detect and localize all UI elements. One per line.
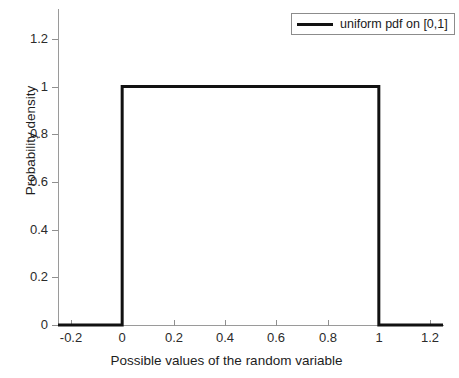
x-tick-mark bbox=[276, 320, 277, 326]
y-tick-mark bbox=[52, 230, 58, 231]
x-tick-label: 1.2 bbox=[400, 331, 459, 344]
y-tick-mark bbox=[52, 325, 58, 326]
x-tick-mark bbox=[379, 320, 380, 326]
x-tick-mark bbox=[174, 320, 175, 326]
x-tick-label: 0.6 bbox=[246, 331, 306, 344]
x-tick-mark bbox=[225, 320, 226, 326]
y-tick-label: 0.2 bbox=[0, 270, 48, 283]
y-tick-mark bbox=[52, 87, 58, 88]
legend-entry-label: uniform pdf on [0,1] bbox=[340, 18, 448, 31]
y-tick-label: 1.2 bbox=[0, 32, 48, 45]
x-tick-mark bbox=[430, 320, 431, 326]
y-tick-mark bbox=[52, 277, 58, 278]
x-tick-mark bbox=[122, 320, 123, 326]
y-tick-label: 0 bbox=[0, 318, 48, 331]
y-axis-line bbox=[58, 9, 59, 326]
y-axis-label: Probability density bbox=[23, 51, 38, 231]
x-tick-mark bbox=[71, 320, 72, 326]
x-tick-mark bbox=[328, 320, 329, 326]
x-axis-line bbox=[58, 325, 444, 326]
x-tick-label: 0 bbox=[92, 331, 152, 344]
y-tick-mark bbox=[52, 134, 58, 135]
y-tick-mark bbox=[52, 182, 58, 183]
y-tick-mark bbox=[52, 39, 58, 40]
chart-legend[interactable]: uniform pdf on [0,1] bbox=[291, 13, 455, 35]
legend-line-swatch bbox=[297, 23, 333, 26]
x-axis-label: Possible values of the random variable bbox=[0, 353, 453, 368]
